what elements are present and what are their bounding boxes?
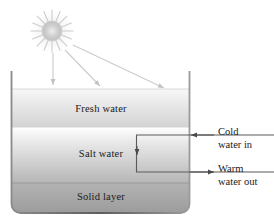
layer-label-fresh-water: Fresh water <box>11 103 191 115</box>
sunlight-rays <box>53 45 164 88</box>
annotation-warm-water-out-line1: Warm <box>218 162 257 175</box>
annotation-warm-water-out-line2: water out <box>218 175 257 188</box>
solar-pond-figure: Fresh water Salt water Solid layer Cold … <box>0 0 274 223</box>
layer-label-solid-layer: Solid layer <box>11 191 191 203</box>
annotation-cold-water-in-line1: Cold <box>218 125 252 138</box>
annotation-warm-water-out: Warm water out <box>218 162 257 188</box>
layer-label-salt-water: Salt water <box>11 148 191 160</box>
sun-icon <box>28 7 76 55</box>
sun-ray-3 <box>73 45 164 88</box>
annotation-cold-water-in: Cold water in <box>218 125 252 151</box>
annotation-cold-water-in-line2: water in <box>218 138 252 151</box>
